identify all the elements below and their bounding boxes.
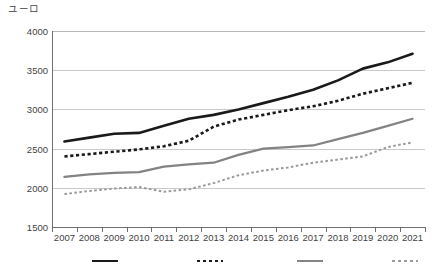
series-lines xyxy=(52,31,425,227)
chart-container: ユーロ 150020002500300035004000 20072008200… xyxy=(0,0,433,265)
x-axis-label: 2015 xyxy=(253,232,274,243)
x-axis-tick xyxy=(127,227,128,232)
x-axis-line xyxy=(52,227,425,228)
x-axis-tick xyxy=(151,227,152,232)
x-axis-label: 2021 xyxy=(402,232,423,243)
x-axis-tick xyxy=(226,227,227,232)
series-line xyxy=(64,83,412,157)
x-axis-tick xyxy=(326,227,327,232)
series-line xyxy=(64,142,412,194)
x-axis-label: 2018 xyxy=(327,232,348,243)
x-axis-label: 2014 xyxy=(228,232,249,243)
x-axis-tick xyxy=(251,227,252,232)
y-axis-tick-labels: 150020002500300035004000 xyxy=(0,0,48,265)
x-axis-label: 2016 xyxy=(278,232,299,243)
legend-swatch xyxy=(297,260,323,262)
series-line xyxy=(64,119,412,177)
x-axis-label: 2010 xyxy=(128,232,149,243)
legend-swatch xyxy=(92,260,118,262)
series-line xyxy=(64,54,412,142)
x-axis-tick xyxy=(350,227,351,232)
legend-swatch xyxy=(392,260,418,262)
x-axis-tick xyxy=(52,227,53,232)
plot-area xyxy=(52,31,425,227)
x-axis-tick xyxy=(276,227,277,232)
x-axis-tick xyxy=(176,227,177,232)
y-axis-tick-label: 3000 xyxy=(27,104,48,115)
x-axis-label: 2013 xyxy=(203,232,224,243)
x-axis-label: 2008 xyxy=(79,232,100,243)
x-axis-label: 2011 xyxy=(154,232,174,243)
legend-swatch xyxy=(197,260,223,262)
x-axis-tick xyxy=(77,227,78,232)
x-axis-tick xyxy=(201,227,202,232)
x-axis-label: 2009 xyxy=(104,232,125,243)
x-axis-tick xyxy=(400,227,401,232)
x-axis-tick xyxy=(375,227,376,232)
x-axis-label: 2007 xyxy=(54,232,75,243)
x-axis-label: 2017 xyxy=(303,232,324,243)
x-axis-label: 2019 xyxy=(352,232,373,243)
x-axis-tick xyxy=(301,227,302,232)
x-axis-tick xyxy=(102,227,103,232)
y-axis-line xyxy=(52,31,53,228)
y-axis-tick-label: 2500 xyxy=(27,143,48,154)
y-axis-tick-label: 2000 xyxy=(27,182,48,193)
y-axis-tick-label: 3500 xyxy=(27,65,48,76)
x-axis-label: 2020 xyxy=(377,232,398,243)
x-axis-label: 2012 xyxy=(178,232,199,243)
y-axis-tick-label: 4000 xyxy=(27,26,48,37)
x-axis-tick xyxy=(425,227,426,232)
chart-legend xyxy=(52,256,425,265)
y-axis-tick-label: 1500 xyxy=(27,222,48,233)
